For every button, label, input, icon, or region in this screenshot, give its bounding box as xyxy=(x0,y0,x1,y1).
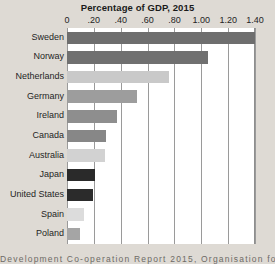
bar-row xyxy=(67,87,254,107)
category-label-sweden: Sweden xyxy=(0,32,64,42)
category-label-japan: Japan xyxy=(0,169,64,179)
category-label-canada: Canada xyxy=(0,130,64,140)
x-axis-tick-labels: 0.20.40.60.801.001.201.40 xyxy=(0,15,275,27)
bar-sweden xyxy=(67,32,255,45)
x-tick-label-0: 0 xyxy=(64,15,69,25)
bar-canada xyxy=(67,130,106,143)
category-label-ireland: Ireland xyxy=(0,110,64,120)
bar-ireland xyxy=(67,110,117,123)
bar-row xyxy=(67,48,254,68)
bar-series xyxy=(67,28,254,244)
bar-united-states xyxy=(67,189,93,202)
x-tick-label-5: 1.00 xyxy=(193,15,211,25)
chart-title: Percentage of GDP, 2015 xyxy=(0,2,275,13)
bar-row xyxy=(67,224,254,244)
category-label-poland: Poland xyxy=(0,228,64,238)
bar-spain xyxy=(67,208,84,221)
x-tick-label-7: 1.40 xyxy=(246,15,264,25)
bar-row xyxy=(67,107,254,127)
bar-row xyxy=(67,146,254,166)
x-tick-label-3: .60 xyxy=(141,15,154,25)
bar-row xyxy=(67,67,254,87)
x-tick-label-2: .40 xyxy=(114,15,127,25)
category-label-netherlands: Netherlands xyxy=(0,71,64,81)
y-axis-category-labels: SwedenNorwayNetherlandsGermanyIrelandCan… xyxy=(0,28,64,244)
bar-japan xyxy=(67,169,95,182)
x-tick-label-1: .20 xyxy=(88,15,101,25)
bar-norway xyxy=(67,51,208,64)
bar-poland xyxy=(67,228,80,241)
x-tick-label-4: .80 xyxy=(168,15,181,25)
plot-area xyxy=(67,28,255,244)
source-caption: Development Co-operation Report 2015, Or… xyxy=(0,254,275,264)
bar-row xyxy=(67,165,254,185)
category-label-australia: Australia xyxy=(0,150,64,160)
bar-germany xyxy=(67,90,137,103)
bar-australia xyxy=(67,149,105,162)
category-label-norway: Norway xyxy=(0,51,64,61)
category-label-spain: Spain xyxy=(0,209,64,219)
category-label-united-states: United States xyxy=(0,189,64,199)
gridline-7 xyxy=(255,28,256,244)
bar-row xyxy=(67,205,254,225)
x-tick-label-6: 1.20 xyxy=(219,15,237,25)
bar-row xyxy=(67,185,254,205)
bar-row xyxy=(67,28,254,48)
bar-netherlands xyxy=(67,71,169,84)
chart-figure: Percentage of GDP, 2015 0.20.40.60.801.0… xyxy=(0,0,275,264)
bar-row xyxy=(67,126,254,146)
category-label-germany: Germany xyxy=(0,91,64,101)
